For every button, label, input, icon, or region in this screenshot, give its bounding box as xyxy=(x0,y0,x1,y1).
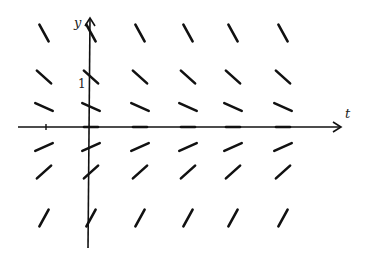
slope-segment xyxy=(84,166,98,179)
slope-segment xyxy=(131,143,148,151)
slope-segment xyxy=(181,166,195,179)
x-axis-label: t xyxy=(345,106,351,121)
slope-segment xyxy=(135,25,144,42)
slope-segment xyxy=(135,210,144,227)
slope-segment xyxy=(274,103,291,111)
slope-segment xyxy=(224,103,241,111)
slope-segment xyxy=(276,166,290,179)
y-tick-label-1: 1 xyxy=(78,77,86,91)
slope-segment xyxy=(183,210,192,227)
slope-segment xyxy=(278,210,287,227)
slope-segment xyxy=(37,166,51,179)
slope-segment xyxy=(181,71,195,84)
slope-segment xyxy=(35,103,52,111)
y-axis xyxy=(88,18,90,248)
slope-segment xyxy=(133,166,147,179)
slope-segment xyxy=(228,25,237,42)
slope-segment xyxy=(179,143,196,151)
slope-segment xyxy=(226,166,240,179)
slope-segment xyxy=(39,210,48,227)
slope-segment xyxy=(183,25,192,42)
slope-segment xyxy=(276,71,290,84)
y-axis-label: y xyxy=(73,15,82,30)
slope-segment xyxy=(82,103,99,111)
slope-segment xyxy=(228,210,237,227)
slope-segment xyxy=(224,143,241,151)
slope-segments xyxy=(35,25,291,227)
slope-segment xyxy=(86,25,95,42)
slope-segment xyxy=(133,71,147,84)
slope-segment xyxy=(35,143,52,151)
slope-segment xyxy=(226,71,240,84)
slope-segment xyxy=(179,103,196,111)
slope-segment xyxy=(82,143,99,151)
slope-field-diagram: t y 1 xyxy=(0,0,372,265)
slope-segment xyxy=(274,143,291,151)
slope-segment xyxy=(39,25,48,42)
slope-segment xyxy=(37,71,51,84)
slope-segment xyxy=(84,71,98,84)
slope-segment xyxy=(278,25,287,42)
slope-segment xyxy=(131,103,148,111)
